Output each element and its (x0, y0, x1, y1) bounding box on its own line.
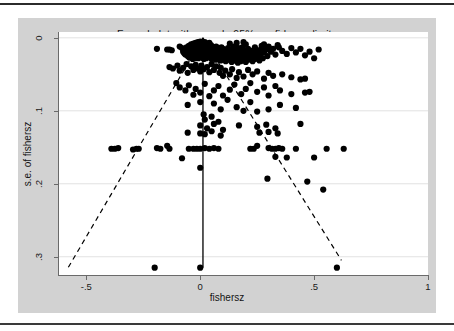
data-point (304, 178, 310, 184)
x-axis-title: fishersz (18, 292, 436, 303)
x-tick-mark (200, 276, 201, 280)
data-point (265, 129, 271, 135)
data-point (320, 187, 326, 193)
data-point (261, 76, 267, 82)
data-point (215, 83, 221, 89)
data-point (234, 104, 240, 110)
data-point (220, 92, 226, 98)
data-point (209, 114, 215, 120)
x-tick-label: -.5 (81, 281, 92, 292)
y-tick-mark (54, 111, 58, 112)
y-tick-mark (54, 38, 58, 39)
y-axis-line (58, 32, 59, 276)
data-point (316, 46, 322, 52)
y-axis-title: s.e. of fishersz (22, 122, 33, 186)
x-tick-mark (428, 276, 429, 280)
data-point-group (108, 38, 347, 270)
data-point (182, 87, 188, 93)
data-point (293, 146, 299, 152)
data-point (284, 51, 290, 57)
data-point (177, 84, 183, 90)
data-point (218, 133, 224, 139)
data-point (209, 128, 215, 134)
data-point (288, 74, 294, 80)
data-point (265, 106, 271, 112)
data-point (211, 87, 217, 93)
y-tick-mark (54, 257, 58, 258)
x-axis-line (58, 275, 429, 276)
data-point (224, 97, 230, 103)
data-point (185, 70, 191, 76)
data-point (185, 102, 191, 108)
data-point (293, 105, 299, 111)
data-point (115, 145, 121, 151)
data-point (277, 102, 283, 108)
data-point (254, 68, 260, 74)
data-point (264, 176, 270, 182)
data-point (186, 82, 192, 88)
pseudo-95-ci-left (68, 38, 203, 268)
data-point (272, 154, 278, 160)
data-point (306, 89, 312, 95)
top-divider-rule (0, 3, 454, 5)
data-point (311, 154, 317, 160)
data-point (265, 92, 271, 98)
data-point (231, 81, 237, 87)
data-point (279, 146, 285, 152)
data-point (154, 46, 160, 52)
data-point (275, 42, 281, 48)
data-point (254, 108, 260, 114)
screenshot-root: Funnel plot with pseudo 95% confidence l… (0, 0, 454, 331)
data-point (227, 41, 233, 47)
data-point (254, 89, 260, 95)
data-point (169, 47, 175, 53)
data-point (297, 121, 303, 127)
data-point (197, 89, 203, 95)
data-point (311, 55, 317, 61)
data-point (247, 80, 253, 86)
data-point (197, 265, 203, 271)
data-point (275, 130, 281, 136)
data-point (324, 146, 330, 152)
data-point (277, 87, 283, 93)
data-point (306, 49, 312, 55)
data-point (136, 146, 142, 152)
data-point (197, 99, 203, 105)
data-point (279, 71, 285, 77)
data-point (220, 127, 226, 133)
data-point (288, 91, 294, 97)
data-point (245, 67, 251, 73)
data-point (202, 116, 208, 122)
data-point (206, 93, 212, 99)
data-point (197, 165, 203, 171)
data-point (263, 122, 269, 128)
data-point (272, 83, 278, 89)
y-tick-label: .1 (33, 107, 44, 115)
x-tick-mark (314, 276, 315, 280)
data-point (272, 52, 278, 58)
data-point (288, 45, 294, 51)
data-point (211, 121, 217, 127)
x-tick-label: 1 (425, 281, 430, 292)
plot-area (59, 32, 428, 275)
y-tick-label: .2 (33, 180, 44, 188)
scatter-canvas (59, 32, 428, 275)
data-point (247, 99, 253, 105)
data-point (341, 146, 347, 152)
data-point (265, 43, 271, 49)
data-point (218, 106, 224, 112)
data-point (238, 91, 244, 97)
data-point (234, 40, 240, 46)
data-point (240, 73, 246, 79)
data-point (334, 265, 340, 271)
data-point (302, 76, 308, 82)
data-point (157, 146, 163, 152)
data-point (234, 75, 240, 81)
data-point (190, 92, 196, 98)
data-point (179, 155, 185, 161)
data-point (166, 146, 172, 152)
y-tick-mark (54, 184, 58, 185)
data-point (229, 66, 235, 72)
data-point (297, 46, 303, 52)
data-point (256, 130, 262, 136)
